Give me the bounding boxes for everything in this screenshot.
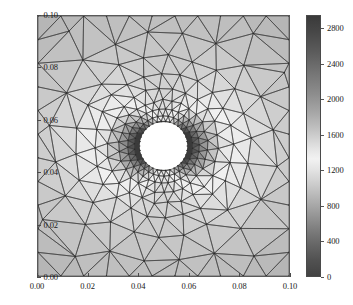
colorbar-tick-label: 400 (327, 236, 339, 246)
x-tick-label: 0.10 (283, 281, 297, 291)
colorbar-tick-mark (321, 277, 324, 278)
y-tick-mark (37, 120, 41, 121)
y-tick-label: 0.00 (44, 272, 58, 282)
colorbar-tick-mark (321, 170, 324, 171)
y-tick-mark (37, 225, 41, 226)
colorbar-tick-label: 2400 (327, 59, 344, 69)
fem-mesh-figure: 0.000.020.040.060.080.10 0.000.020.040.0… (0, 0, 353, 305)
y-tick-label: 0.02 (44, 220, 58, 230)
x-tick-label: 0.00 (30, 281, 44, 291)
colorbar-tick-label: 2000 (327, 94, 344, 104)
x-tick-mark (138, 273, 139, 277)
x-tick-label: 0.04 (131, 281, 145, 291)
colorbar-tick-mark (321, 64, 324, 65)
colorbar: 040080012001600200024002800 (306, 15, 321, 277)
x-tick-mark (189, 273, 190, 277)
y-tick-label: 0.04 (44, 167, 58, 177)
colorbar-tick-label: 0 (327, 272, 331, 282)
x-tick-mark (37, 273, 38, 277)
colorbar-tick-mark (321, 99, 324, 100)
y-tick-mark (37, 67, 41, 68)
colorbar-tick-label: 800 (327, 201, 339, 211)
colorbar-tick-label: 1200 (327, 165, 344, 175)
colorbar-tick-mark (321, 135, 324, 136)
y-tick-mark (37, 172, 41, 173)
x-tick-mark (239, 273, 240, 277)
colorbar-gradient (306, 15, 321, 277)
x-tick-label: 0.06 (182, 281, 196, 291)
y-tick-label: 0.06 (44, 115, 58, 125)
y-tick-mark (37, 15, 41, 16)
y-tick-label: 0.08 (44, 62, 58, 72)
circular-hole (140, 122, 188, 170)
x-tick-mark (290, 273, 291, 277)
x-tick-label: 0.08 (232, 281, 246, 291)
colorbar-tick-mark (321, 28, 324, 29)
colorbar-tick-mark (321, 241, 324, 242)
colorbar-tick-label: 2800 (327, 23, 344, 33)
x-tick-mark (88, 273, 89, 277)
x-tick-label: 0.02 (80, 281, 94, 291)
y-tick-mark (37, 277, 41, 278)
plot-area (37, 15, 290, 277)
colorbar-tick-label: 1600 (327, 130, 344, 140)
colorbar-tick-mark (321, 206, 324, 207)
y-tick-label: 0.10 (44, 10, 58, 20)
triangular-mesh (38, 16, 289, 276)
